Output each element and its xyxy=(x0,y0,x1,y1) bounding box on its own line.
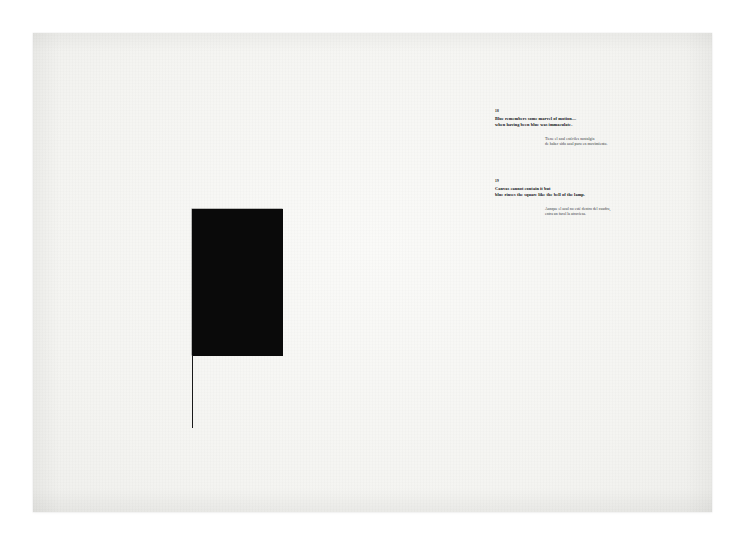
poem-line-english: Blue remembers some marvel of motion— xyxy=(495,116,607,123)
poem-line-english: Canvas cannot contain it but xyxy=(495,186,610,193)
stanza-number: 19 xyxy=(495,179,610,184)
black-rectangle-artwork xyxy=(192,209,283,356)
scanned-spread: 18 Blue remembers some marvel of motion—… xyxy=(0,0,746,543)
poem-stanza: 19 Canvas cannot contain it but blue rin… xyxy=(495,179,610,218)
descending-hairline xyxy=(192,355,193,428)
poem-stanza: 18 Blue remembers some marvel of motion—… xyxy=(495,109,607,148)
poem-translation-block: Tiene el azul estériles nostalgia de hab… xyxy=(545,137,607,149)
poem-translation-block: Aunque el azul no esté dentro del cuadro… xyxy=(545,207,610,219)
poem-line-spanish: de haber sido azul puro en movimiento. xyxy=(545,142,607,148)
poem-line-spanish: entra un farol la atraviesa. xyxy=(545,212,610,218)
stanza-number: 18 xyxy=(495,109,607,114)
poem-line-english: blue rinses the square like the bell of … xyxy=(495,192,610,199)
paper-sheet: 18 Blue remembers some marvel of motion—… xyxy=(33,33,712,512)
poem-line-english: when having been blue was immaculate. xyxy=(495,122,607,129)
